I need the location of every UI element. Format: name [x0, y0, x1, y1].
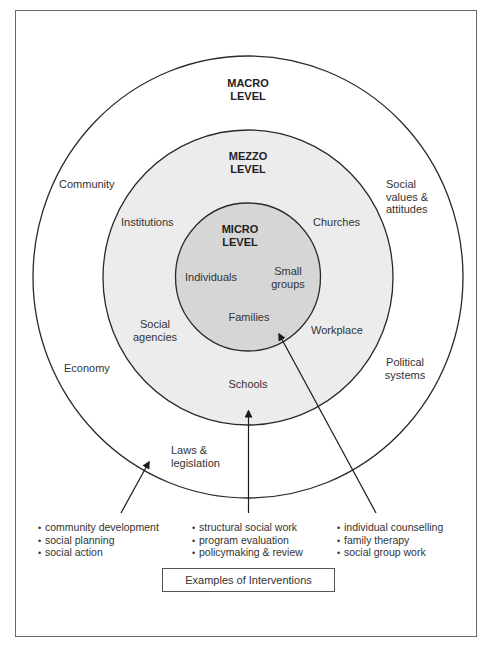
social-agencies-line1: Social: [133, 318, 177, 331]
label-small-groups: Small groups: [271, 265, 305, 290]
list-item: social action: [38, 547, 159, 560]
label-social-values-attitudes: Social values & attitudes: [386, 178, 428, 216]
list-item: policymaking & review: [192, 547, 303, 560]
label-economy: Economy: [64, 362, 110, 375]
political-line1: Political: [385, 356, 425, 369]
social-values-line2: values &: [386, 191, 428, 204]
label-institutions: Institutions: [121, 216, 174, 229]
social-values-line1: Social: [386, 178, 428, 191]
label-political-systems: Political systems: [385, 356, 425, 381]
mezzo-interventions-list: structural social work program evaluatio…: [192, 522, 303, 560]
list-item: individual counselling: [337, 522, 443, 535]
list-item: community development: [38, 522, 159, 535]
list-item: social group work: [337, 547, 443, 560]
label-workplace: Workplace: [311, 324, 363, 337]
macro-level-title: MACRO LEVEL: [227, 77, 269, 102]
arrow-macro-interventions: [121, 462, 149, 513]
laws-line1: Laws &: [171, 444, 220, 457]
micro-interventions-list: individual counselling family therapy so…: [337, 522, 443, 560]
label-schools: Schools: [228, 378, 267, 391]
micro-level-title: MICRO LEVEL: [222, 223, 259, 248]
mezzo-title-line2: LEVEL: [229, 163, 268, 176]
label-churches: Churches: [313, 216, 360, 229]
mezzo-level-title: MEZZO LEVEL: [229, 150, 268, 175]
interventions-caption: Examples of Interventions: [162, 568, 335, 592]
small-groups-line1: Small: [271, 265, 305, 278]
label-individuals: Individuals: [185, 271, 237, 284]
macro-title-line2: LEVEL: [227, 90, 269, 103]
label-social-agencies: Social agencies: [133, 318, 177, 343]
label-community: Community: [59, 178, 115, 191]
mezzo-title-line1: MEZZO: [229, 150, 268, 163]
social-values-line3: attitudes: [386, 203, 428, 216]
social-agencies-line2: agencies: [133, 331, 177, 344]
macro-interventions-list: community development social planning so…: [38, 522, 159, 560]
micro-title-line2: LEVEL: [222, 236, 259, 249]
label-laws-legislation: Laws & legislation: [171, 444, 220, 469]
small-groups-line2: groups: [271, 278, 305, 291]
micro-title-line1: MICRO: [222, 223, 259, 236]
list-item: structural social work: [192, 522, 303, 535]
laws-line2: legislation: [171, 457, 220, 470]
macro-title-line1: MACRO: [227, 77, 269, 90]
label-families: Families: [229, 311, 270, 324]
political-line2: systems: [385, 369, 425, 382]
